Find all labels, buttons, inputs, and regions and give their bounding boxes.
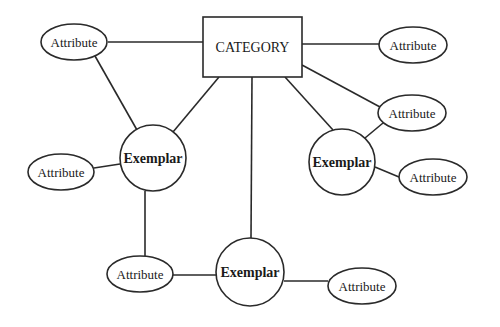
edge-attr_left-to-exemplar_left (94, 164, 120, 168)
node-attr-right-low: Attribute (399, 159, 467, 195)
node-attr-bottom-left: Attribute (107, 256, 173, 292)
category-exemplar-diagram: CATEGORY AttributeAttributeAttributeExem… (0, 0, 500, 327)
node-attr-left: Attribute (28, 154, 94, 190)
attribute-label: Attribute (390, 38, 437, 53)
attribute-label: Attribute (51, 35, 98, 50)
edge-exemplar_right-to-attr_right_low (375, 167, 399, 177)
category-node: CATEGORY (203, 17, 302, 77)
edge-category-to-exemplar_right (285, 77, 333, 130)
exemplar-label: Exemplar (312, 155, 371, 170)
edge-attr_right_mid-to-exemplar_right (365, 123, 383, 138)
attribute-label: Attribute (117, 267, 164, 282)
edge-category-to-exemplar_bottom (251, 77, 252, 238)
exemplar-label: Exemplar (123, 151, 182, 166)
edge-category-to-exemplar_left (173, 77, 219, 132)
edge-category-to-attr_right_mid (302, 65, 380, 107)
attribute-label: Attribute (339, 279, 386, 294)
edge-attr_top_left-to-exemplar_left (95, 56, 137, 130)
attribute-label: Attribute (389, 106, 436, 121)
node-exemplar-bottom: Exemplar (216, 238, 284, 306)
attribute-label: Attribute (38, 165, 85, 180)
node-attr-top-left: Attribute (41, 24, 107, 60)
attribute-label: Attribute (410, 170, 457, 185)
node-attr-right-mid: Attribute (378, 95, 446, 131)
node-exemplar-left: Exemplar (120, 125, 186, 191)
node-attr-top-right: Attribute (379, 27, 447, 63)
exemplar-label: Exemplar (220, 265, 279, 280)
node-attr-bottom-right: Attribute (328, 268, 396, 304)
node-exemplar-right: Exemplar (309, 129, 375, 195)
category-label: CATEGORY (216, 40, 290, 55)
